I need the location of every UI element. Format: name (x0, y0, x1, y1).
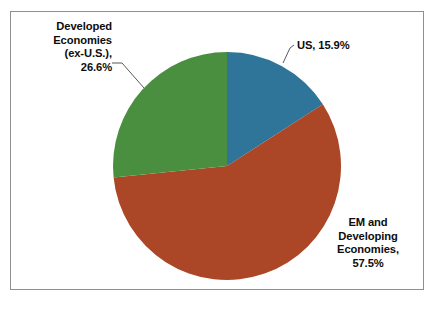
pie-chart-figure: Developed Economies (ex-U.S.), 26.6% US,… (0, 0, 445, 318)
pie-label-us: US, 15.9% (297, 39, 407, 53)
pie-slice-developed-economies[interactable] (113, 52, 227, 177)
pie-label-developed-economies: Developed Economies (ex-U.S.), 26.6% (26, 20, 112, 74)
leader-line-developed (112, 63, 144, 88)
pie-label-em-developing: EM and Developing Economies, 57.5% (318, 216, 418, 270)
leader-line-us (283, 45, 294, 63)
